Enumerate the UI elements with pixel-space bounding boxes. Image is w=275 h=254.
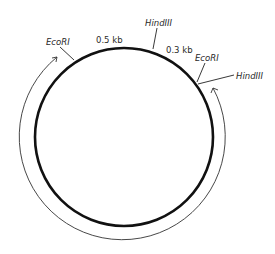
site-label-hindiii-right: HindIII xyxy=(236,71,264,81)
site-label-hindiii-top: HindIII xyxy=(145,18,173,28)
leader-ecori-right xyxy=(197,63,205,82)
fragment-label-0-3kb: 0.3 kb xyxy=(166,45,193,55)
leader-hindiii-top xyxy=(153,28,157,49)
site-label-ecori-right: EcoRI xyxy=(195,53,219,63)
plasmid-circle xyxy=(35,48,213,226)
site-label-ecori-left: EcoRI xyxy=(46,37,70,47)
fragment-label-0-5kb: 0.5 kb xyxy=(96,35,123,45)
plasmid-map: EcoRI 0.5 kb HindIII 0.3 kb EcoRI HindII… xyxy=(0,0,275,254)
leader-hindiii-right xyxy=(198,75,234,84)
leader-ecori-left xyxy=(60,47,74,60)
